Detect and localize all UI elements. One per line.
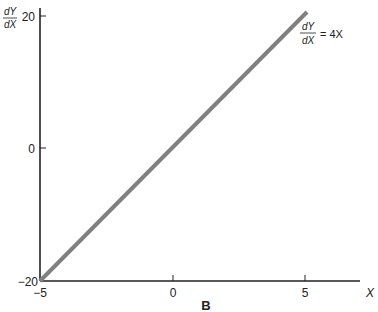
y-tick-label-0: 0 — [28, 142, 35, 156]
x-tick-label-0: 0 — [170, 286, 177, 300]
series-line-4x — [40, 12, 307, 281]
equation-numerator: dY — [302, 21, 316, 32]
panel-label: B — [201, 298, 210, 312]
y-axis-label-denominator: dX — [4, 19, 17, 30]
chart-canvas: 20 0 −20 −5 0 5 X dY dX dY dX = 4X B — [0, 0, 378, 312]
y-axis-label-numerator: dY — [4, 6, 18, 17]
x-axis-label: X — [365, 286, 375, 300]
equation-rhs: = 4X — [320, 28, 344, 40]
y-tick-label-20: 20 — [22, 10, 36, 24]
x-tick-label-neg5: −5 — [33, 286, 47, 300]
equation-denominator: dX — [302, 35, 315, 46]
x-tick-label-5: 5 — [302, 286, 309, 300]
